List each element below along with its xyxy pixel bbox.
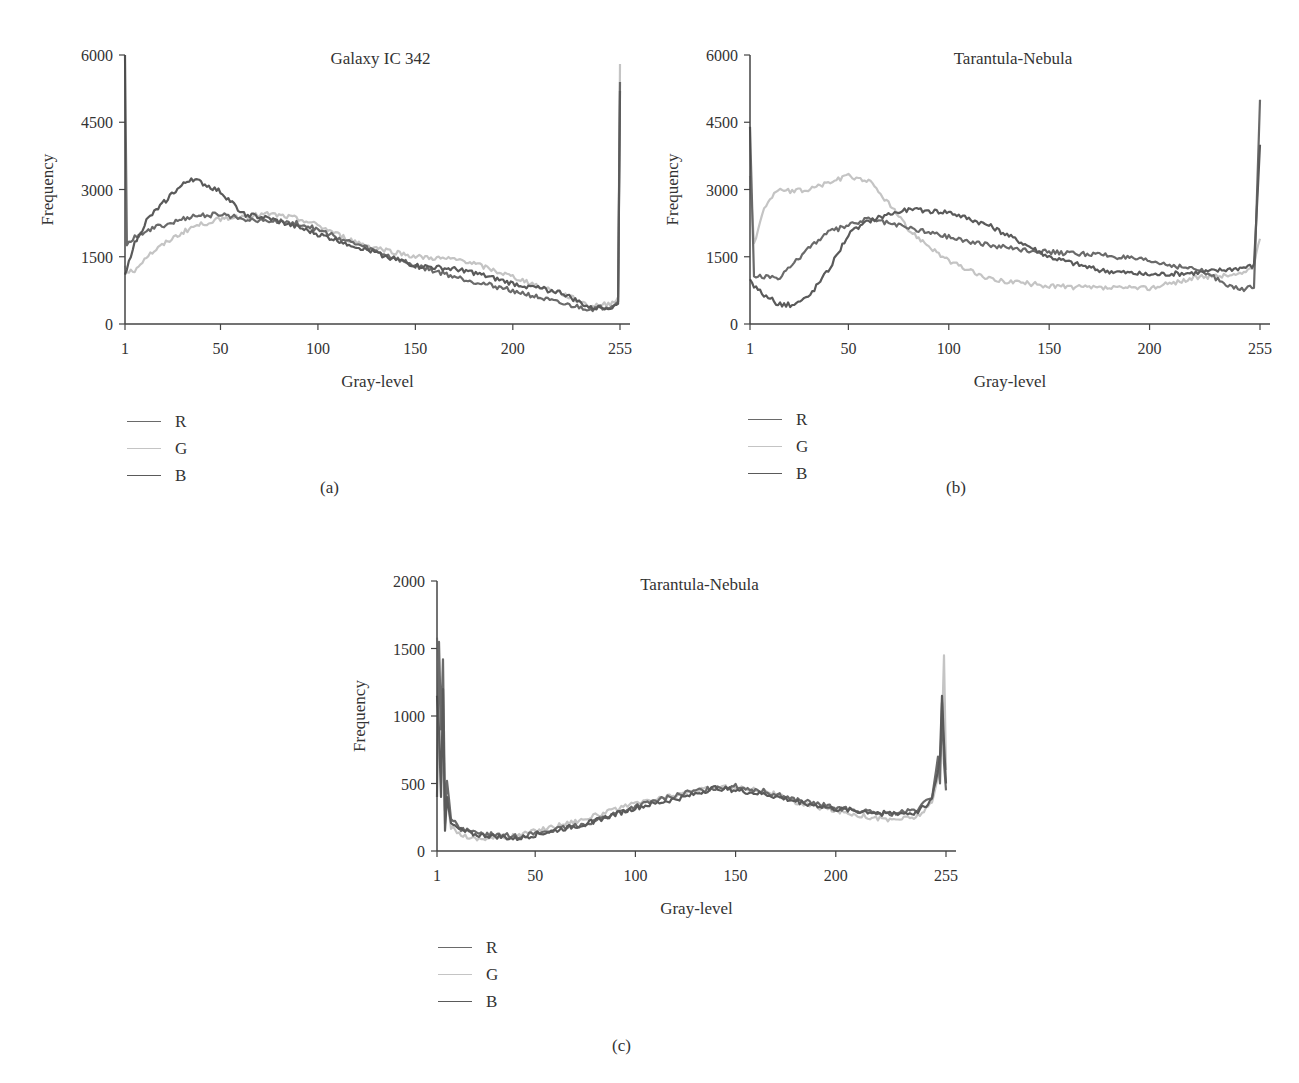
chart-panel-c: Tarantula-Nebula050010001500200015010015… — [340, 540, 960, 1060]
legend-item-r: R — [438, 934, 498, 961]
y-axis-label: Frequency — [350, 680, 369, 752]
legend-swatch-g — [748, 446, 782, 447]
y-axis-label: Frequency — [663, 153, 682, 225]
x-tick-label: 200 — [501, 340, 525, 357]
panel-label-a: (a) — [320, 478, 339, 498]
legend-swatch-r — [127, 421, 161, 422]
series-b-line — [125, 91, 620, 310]
legend-swatch-g — [127, 448, 161, 449]
series-r-line — [125, 55, 620, 311]
y-tick-label: 1500 — [706, 249, 738, 266]
chart-b-svg: Tarantula-Nebula015003000450060001501001… — [650, 0, 1299, 400]
x-tick-label: 150 — [403, 340, 427, 357]
legend-swatch-b — [127, 475, 161, 476]
x-tick-label: 100 — [306, 340, 330, 357]
series-r-line — [437, 642, 946, 838]
y-tick-label: 4500 — [706, 114, 738, 131]
x-tick-label: 255 — [1248, 340, 1272, 357]
chart-c-svg: Tarantula-Nebula050010001500200015010015… — [340, 540, 960, 920]
y-tick-label: 3000 — [81, 182, 113, 199]
chart-title: Tarantula-Nebula — [954, 49, 1073, 68]
series-b-line — [437, 689, 946, 840]
x-tick-label: 200 — [824, 867, 848, 884]
x-tick-label: 50 — [840, 340, 856, 357]
y-tick-label: 0 — [417, 843, 425, 860]
y-tick-label: 0 — [105, 316, 113, 333]
y-tick-label: 1500 — [81, 249, 113, 266]
chart-title: Tarantula-Nebula — [640, 575, 759, 594]
legend-item-b: B — [127, 462, 187, 489]
x-tick-label: 1 — [433, 867, 441, 884]
y-tick-label: 3000 — [706, 182, 738, 199]
chart-title: Galaxy IC 342 — [330, 49, 430, 68]
chart-a-svg: Galaxy IC 342015003000450060001501001502… — [0, 0, 650, 400]
legend-item-r: R — [127, 408, 187, 435]
x-tick-label: 1 — [121, 340, 129, 357]
x-axis-label: Gray-level — [341, 372, 414, 391]
legend-item-g: G — [438, 961, 498, 988]
y-tick-label: 500 — [401, 776, 425, 793]
legend-b: R G B — [748, 406, 808, 487]
legend-c: R G B — [438, 934, 498, 1015]
x-tick-label: 100 — [937, 340, 961, 357]
x-tick-label: 150 — [724, 867, 748, 884]
y-tick-label: 6000 — [81, 47, 113, 64]
x-tick-label: 50 — [212, 340, 228, 357]
legend-item-g: G — [127, 435, 187, 462]
y-tick-label: 4500 — [81, 114, 113, 131]
x-tick-label: 100 — [623, 867, 647, 884]
x-tick-label: 255 — [608, 340, 632, 357]
legend-item-r: R — [748, 406, 808, 433]
panel-label-b: (b) — [946, 478, 966, 498]
x-tick-label: 50 — [527, 867, 543, 884]
series-g-line — [125, 64, 620, 307]
x-tick-label: 1 — [746, 340, 754, 357]
y-tick-label: 1500 — [393, 641, 425, 658]
x-tick-label: 200 — [1138, 340, 1162, 357]
x-axis-label: Gray-level — [974, 372, 1047, 391]
legend-swatch-b — [438, 1001, 472, 1002]
legend-swatch-r — [438, 947, 472, 948]
legend-swatch-r — [748, 419, 782, 420]
legend-swatch-b — [748, 473, 782, 474]
legend-item-g: G — [748, 433, 808, 460]
y-tick-label: 2000 — [393, 573, 425, 590]
y-tick-label: 1000 — [393, 708, 425, 725]
legend-swatch-g — [438, 974, 472, 975]
y-tick-label: 6000 — [706, 47, 738, 64]
x-axis-label: Gray-level — [660, 899, 733, 918]
series-r-line — [750, 100, 1260, 291]
chart-panel-b: Tarantula-Nebula015003000450060001501001… — [650, 0, 1299, 520]
panel-label-c: (c) — [612, 1036, 631, 1056]
chart-panel-a: Galaxy IC 342015003000450060001501001502… — [0, 0, 650, 520]
legend-item-b: B — [438, 988, 498, 1015]
y-tick-label: 0 — [730, 316, 738, 333]
x-tick-label: 150 — [1037, 340, 1061, 357]
legend-item-b: B — [748, 460, 808, 487]
legend-a: R G B — [127, 408, 187, 489]
x-tick-label: 255 — [934, 867, 958, 884]
y-axis-label: Frequency — [38, 153, 57, 225]
